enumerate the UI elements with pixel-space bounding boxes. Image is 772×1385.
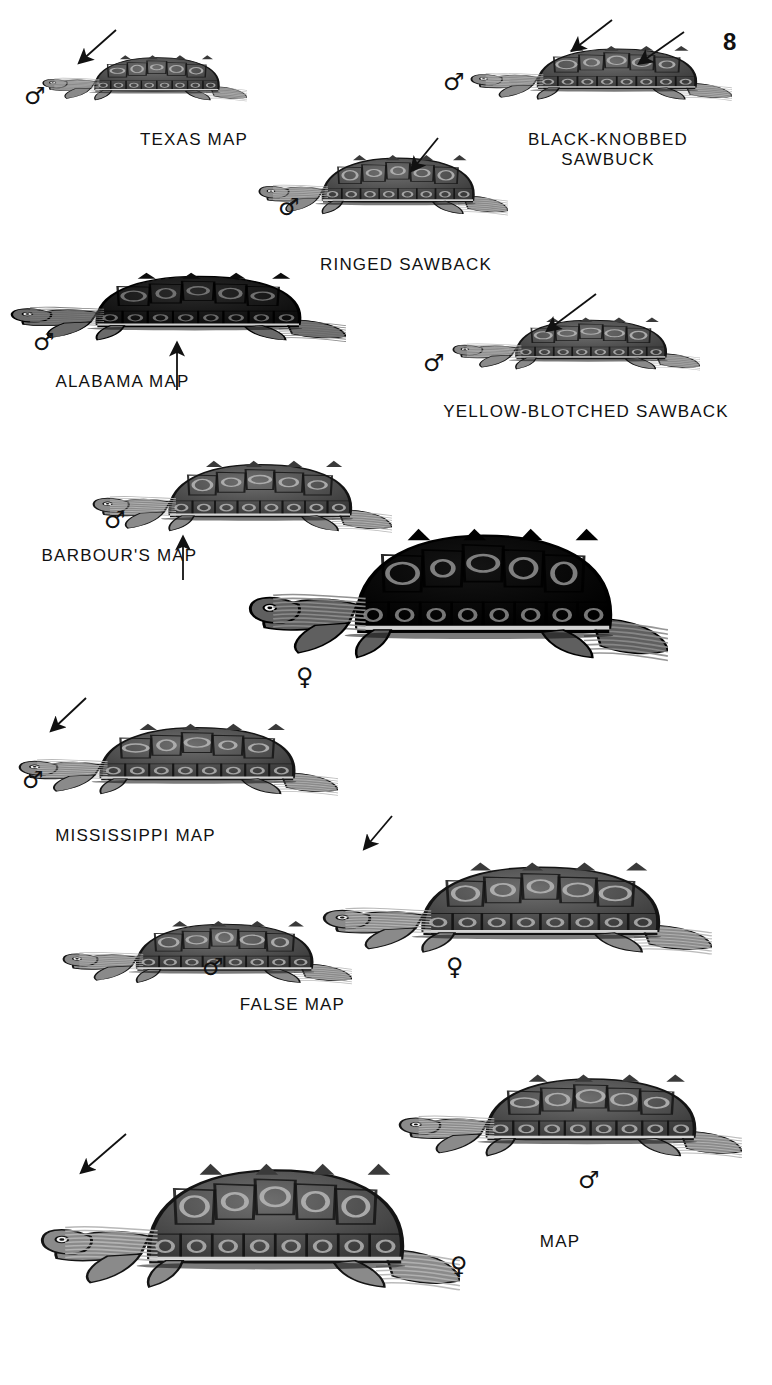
- male-symbol-false-map-male: ♂: [202, 955, 224, 979]
- species-caption-map-male: MAP: [520, 1232, 600, 1252]
- male-symbol-black-knobbed-sawback: ♂: [443, 70, 465, 94]
- species-caption-texas-map: TEXAS MAP: [108, 130, 280, 150]
- species-caption-yellow-blotched-sawback: YELLOW-BLOTCHED SAWBACK: [425, 402, 747, 422]
- male-symbol-texas-map: ♂: [24, 84, 46, 108]
- turtle-illustration-alabama-map: [10, 250, 346, 370]
- species-caption-ringed-sawback: RINGED SAWBACK: [300, 255, 512, 275]
- male-symbol-mississippi-map: ♂: [22, 768, 44, 792]
- turtle-illustration-mississippi-map: [18, 700, 338, 825]
- male-symbol-ringed-sawback: ♂: [278, 195, 300, 219]
- species-caption-black-knobbed-sawback: BLACK-KNOBBED SAWBUCK: [498, 130, 718, 170]
- field-guide-plate: 8: [0, 0, 772, 1385]
- species-caption-alabama-map: ALABAMA MAP: [40, 372, 205, 392]
- turtle-illustration-ringed-sawback: [258, 135, 508, 240]
- male-symbol-barbours-map-male: ♂: [104, 508, 126, 532]
- turtle-illustration-false-map-female: [322, 832, 712, 992]
- turtle-illustration-texas-map: [42, 40, 247, 120]
- female-symbol-map-female: ♀: [450, 1254, 468, 1278]
- turtle-illustration-map-female: [40, 1122, 460, 1342]
- turtle-illustration-black-knobbed-sawback: [470, 28, 732, 123]
- male-symbol-map-male: ♂: [578, 1168, 600, 1192]
- species-caption-barbours-map-male: BARBOUR'S MAP: [32, 546, 207, 566]
- turtle-illustration-yellow-blotched-sawback: [452, 300, 700, 392]
- female-symbol-false-map-female: ♀: [446, 955, 464, 979]
- species-caption-mississippi-map: MISSISSIPPI MAP: [38, 826, 233, 846]
- species-caption-false-map-male: FALSE MAP: [225, 995, 360, 1015]
- female-symbol-barbours-map-female: ♀: [296, 665, 314, 689]
- male-symbol-yellow-blotched-sawback: ♂: [423, 351, 445, 375]
- male-symbol-alabama-map: ♂: [33, 330, 55, 354]
